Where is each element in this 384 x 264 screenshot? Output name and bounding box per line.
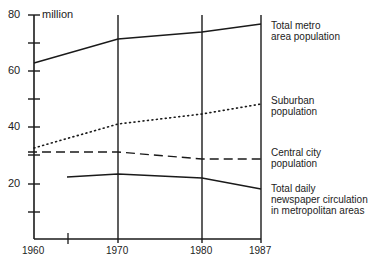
series-newspaper (67, 174, 261, 189)
x-tick-label-1987: 1987 (249, 245, 271, 256)
y-tick-label-40: 40 (8, 121, 20, 132)
legend-newspaper: Total daily newspaper circulation in met… (271, 183, 368, 216)
series-central-city (28, 152, 261, 159)
vertical-gridlines (118, 15, 261, 243)
y-tick-label-60: 60 (8, 65, 20, 76)
x-tick-label-1980: 1980 (190, 245, 212, 256)
legend-central-city: Central city population (271, 147, 321, 169)
y-unit-label: million (42, 9, 73, 20)
series-suburban (34, 104, 261, 148)
y-tick-label-80: 80 (8, 9, 20, 20)
x-tick-label-1960: 1960 (22, 245, 44, 256)
legend-suburban: Suburban population (271, 95, 317, 117)
series-total-metro (34, 24, 261, 63)
y-tick-label-20: 20 (8, 178, 20, 189)
legend-total-metro: Total metro area population (271, 20, 340, 42)
x-tick-label-1970: 1970 (106, 245, 128, 256)
